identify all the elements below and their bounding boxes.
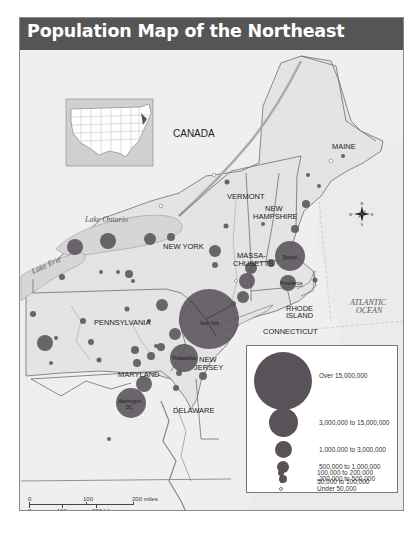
city-circle-binghamton[interactable] — [125, 270, 133, 278]
city-circle-york[interactable] — [133, 359, 141, 367]
city-circle-reading[interactable] — [157, 343, 165, 351]
city-circle-albany[interactable] — [209, 245, 221, 257]
city-circle-allentown[interactable] — [169, 328, 181, 340]
legend-item-1m-3m: 1,000,000 to 3,000,000 — [247, 446, 397, 456]
legend-item-500k-1m: 500,000 to 1,000,000 — [247, 463, 397, 473]
city-circle-new-haven[interactable] — [237, 291, 249, 303]
legend-circle-1m-3m-icon — [275, 441, 292, 458]
legend-label: 200,000 to 500,000 — [319, 475, 375, 482]
scale-line — [29, 504, 133, 505]
legend-label: 3,000,000 to 15,000,000 — [319, 419, 389, 426]
label-city-boston: Boston — [283, 255, 298, 260]
label-connecticut: CONNECTICUT — [263, 327, 318, 336]
city-circle-lancaster[interactable] — [147, 352, 155, 360]
legend-label: 1,000,000 to 3,000,000 — [319, 446, 386, 453]
legend-circle-3m-15m-icon — [269, 408, 298, 437]
legend-item-200k-500k: 200,000 to 500,000 — [247, 475, 397, 485]
city-circle-pittsburgh[interactable] — [37, 335, 53, 351]
label-city-washington-2: DC — [126, 405, 133, 410]
legend-label: 500,000 to 1,000,000 — [319, 463, 380, 470]
label-rhode-island-2: ISLAND — [286, 311, 314, 320]
city-circle-portland[interactable] — [302, 200, 310, 208]
city-circle-scranton[interactable] — [156, 299, 168, 311]
legend-label: Over 15,000,000 — [319, 372, 367, 379]
label-massachusetts-2: CHUSETTS — [233, 259, 273, 268]
label-new-hampshire-2: HAMPSHIRE — [253, 212, 298, 221]
label-new-york: NEW YORK — [163, 242, 204, 251]
legend-circle-500k-1m-icon — [277, 461, 289, 473]
city-circle-syracuse[interactable] — [144, 233, 156, 245]
label-city-washington-1: Washington — [118, 399, 142, 404]
inset-us-map — [66, 99, 153, 166]
label-new-jersey-2: JERSEY — [194, 363, 223, 372]
label-delaware: DELAWARE — [173, 406, 215, 415]
label-maine: MAINE — [332, 142, 356, 151]
title-bar: Population Map of the Northeast — [20, 18, 403, 50]
scale-miles-mid: 100 — [83, 496, 93, 502]
label-pennsylvania: PENNSYLVANIA — [94, 318, 150, 327]
label-atlantic-2: OCEAN — [356, 306, 383, 315]
label-vermont: VERMONT — [227, 192, 265, 201]
page-title: Population Map of the Northeast — [27, 21, 344, 41]
map-frame: CANADA MAINE VERMONT NEW HAMPSHIRE NEW Y… — [19, 17, 404, 511]
city-circle-manchester[interactable] — [291, 225, 299, 233]
label-lake-ontario: Lake Ontario — [84, 215, 128, 224]
city-circle-new-york[interactable] — [179, 289, 239, 349]
scale-km-mid: 100 — [57, 508, 67, 511]
population-legend: Over 15,000,000 3,000,000 to 15,000,000 … — [246, 345, 398, 493]
legend-item-3m-15m: 3,000,000 to 15,000,000 — [247, 419, 397, 429]
scale-miles-end: 200 miles — [132, 496, 158, 502]
legend-circle-over-15m-icon — [254, 352, 312, 410]
scale-km-end: 200 kilometers — [92, 508, 131, 511]
label-city-new-york: New York — [200, 321, 220, 326]
city-circle-buffalo[interactable] — [67, 239, 83, 255]
city-circle-hartford[interactable] — [239, 273, 255, 289]
label-canada: CANADA — [173, 128, 215, 139]
label-city-philadelphia: Philadelphia — [172, 356, 197, 361]
city-circle-nj-coast[interactable] — [199, 372, 207, 380]
legend-circle-200k-500k-icon — [279, 475, 287, 483]
scale-km-zero: 0 — [28, 508, 31, 511]
label-city-providence: Providence — [280, 281, 303, 286]
legend-item-over-15m: Over 15,000,000 — [247, 372, 397, 382]
city-circle-rochester[interactable] — [100, 233, 116, 249]
city-circle-utica[interactable] — [167, 233, 175, 241]
label-maryland: MARYLAND — [118, 370, 160, 379]
city-circle-erie[interactable] — [59, 274, 65, 280]
city-circle-harrisburg[interactable] — [131, 346, 139, 354]
